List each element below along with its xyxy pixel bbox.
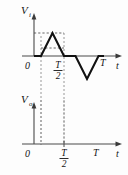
top-half-period-label: T 2 [54,60,63,81]
bottom-x-axis-label: t [116,148,119,159]
figure-canvas: V i 0 T 2 T t V [0,0,128,175]
bottom-y-axis-label: V [21,93,29,105]
top-x-axis-label: t [116,60,119,71]
top-y-axis-arrow-icon [32,13,37,20]
bottom-x-axis-arrow-icon [116,142,123,147]
top-half-period-numerator: T [55,60,61,70]
bottom-period-label: T [93,147,100,158]
bottom-half-period-numerator: T [61,148,67,158]
bottom-half-period-label: T 2 [60,148,69,169]
top-y-axis-label-subscript: i [29,11,31,19]
bottom-y-axis-label-subscript: o [29,100,33,108]
top-period-label: T [100,57,107,68]
bottom-origin-label: 0 [25,148,30,159]
top-y-axis-label: V [21,4,29,16]
top-x-axis-arrow-icon [116,54,123,59]
top-chart-group: V i 0 T 2 T t [21,4,122,145]
bottom-half-period-denominator: 2 [62,159,67,169]
bottom-chart-group: V o 0 T 2 T t [21,93,122,169]
top-origin-label: 0 [25,60,30,71]
waveform-figure: V i 0 T 2 T t V [0,0,128,175]
top-half-period-denominator: 2 [56,71,61,81]
